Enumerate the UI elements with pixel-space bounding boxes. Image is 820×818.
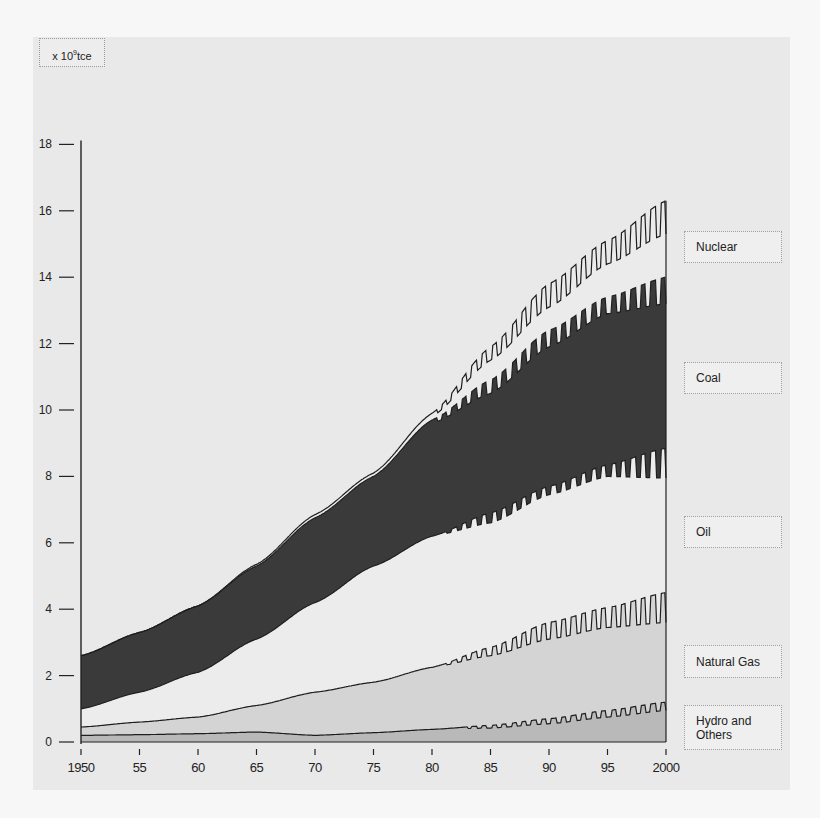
legend-label: Oil [696,525,711,539]
x-tick-label: 60 [191,760,205,775]
y-tick-label: 10 [39,403,53,417]
x-tick-label: 95 [601,760,615,775]
x-tick-label: 80 [425,760,439,775]
x-tick-label: 85 [484,760,498,775]
x-tick-label: 90 [542,760,556,775]
x-tick-label: 65 [250,760,264,775]
x-tick-label: 2000 [653,760,680,775]
legend-label: Hydro and [696,714,751,728]
legend-coal: Coal [684,362,782,394]
y-tick-label: 4 [45,602,52,616]
y-tick-label: 6 [45,536,52,550]
y-tick-label: 0 [45,735,52,749]
legend-oil: Oil [684,516,782,548]
legend-natural-gas: Natural Gas [684,645,782,678]
y-tick-label: 18 [39,137,53,151]
x-tick-label: 55 [133,760,147,775]
unit-prefix: x 10 [52,50,73,62]
x-tick-label: 70 [308,760,322,775]
x-tick-label: 75 [367,760,381,775]
y-tick-label: 14 [39,270,53,284]
legend-label: Others [696,728,732,742]
y-tick-label: 12 [39,337,53,351]
y-tick-label: 16 [39,204,53,218]
legend-label: Natural Gas [696,655,760,669]
y-tick-label: 2 [45,669,52,683]
y-tick-label: 8 [45,469,52,483]
stacked-areas [81,201,666,742]
energy-chart: 0246810121416181950556065707580859095200… [0,0,820,818]
legend-hydro-others: Hydro andOthers [684,705,782,750]
legend-label: Coal [696,371,721,385]
unit-suffix: tce [77,50,92,62]
x-tick-label: 1950 [68,760,95,775]
legend-nuclear: Nuclear [684,231,782,263]
legend-label: Nuclear [696,240,737,254]
unit-label: x 109tce [39,38,105,67]
